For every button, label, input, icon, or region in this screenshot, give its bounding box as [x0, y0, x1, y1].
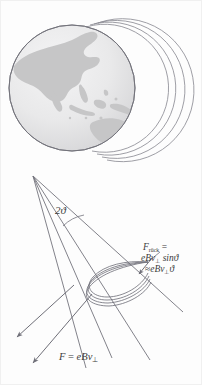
physics-figure: 2ϑ Frück = eBv⊥ sinϑ ≈eBv⊥ϑ F = eBv⊥: [0, 0, 202, 385]
restoring-force-line-1: Frück =: [143, 243, 178, 253]
lorentz-force-equals: =: [65, 351, 76, 362]
force-arrows: [17, 258, 152, 363]
restoring-force-expr: eBv: [141, 253, 155, 263]
lorentz-force-label: F = eBv⊥: [59, 351, 98, 364]
lorentz-force-perp: ⊥: [92, 356, 98, 363]
figure-canvas: [0, 0, 202, 385]
restoring-force-theta: ϑ: [169, 264, 174, 274]
cone-ray-2: [33, 176, 150, 360]
angle-label: 2ϑ: [55, 205, 66, 217]
land-island-d: [69, 117, 71, 119]
land-island-c: [115, 98, 118, 101]
restoring-force-line-3: ≈eBv⊥ϑ: [145, 265, 178, 275]
angle-arc: [63, 215, 84, 226]
land-island-a: [99, 116, 102, 119]
restoring-force-subscript: rück: [149, 247, 159, 253]
restoring-force-label: Frück = eBv⊥ sinϑ ≈eBv⊥ϑ: [141, 243, 178, 275]
lorentz-force-arrow-upper: [17, 285, 74, 337]
cone-ray-3: [33, 176, 112, 358]
restoring-force-sin: sinϑ: [160, 253, 178, 263]
restoring-force-expr-approx: eBv: [150, 264, 164, 274]
lorentz-force-expr: eBv: [77, 351, 93, 362]
restoring-force-equals: =: [159, 242, 167, 252]
angle-label-text: 2ϑ: [55, 204, 66, 216]
spiral-loop-2: [88, 262, 149, 300]
land-island-b: [85, 117, 88, 120]
restoring-force-line-2: eBv⊥ sinϑ: [141, 254, 178, 264]
globe: [9, 25, 135, 151]
